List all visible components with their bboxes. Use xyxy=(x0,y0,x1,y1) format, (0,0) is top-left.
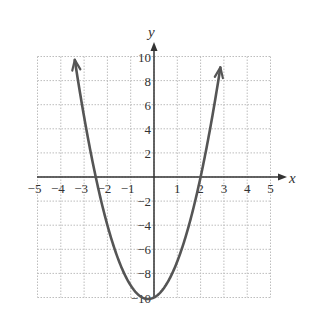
x-tick-label: −1 xyxy=(121,181,135,196)
chart-canvas: x y −5−4−3−2−112345108642−2−4−6−8−10 xyxy=(0,0,312,323)
y-tick-label: 6 xyxy=(145,98,152,113)
x-axis-arrow-icon xyxy=(278,174,287,181)
y-tick-label: 10 xyxy=(138,50,151,65)
y-tick-label: −2 xyxy=(137,194,151,209)
x-tick-label: −5 xyxy=(28,181,42,196)
x-axis-label: x xyxy=(288,170,296,186)
x-tick-label: 1 xyxy=(174,181,181,196)
parabola-curve xyxy=(75,60,221,299)
x-tick-label: −3 xyxy=(74,181,88,196)
y-tick-label: −4 xyxy=(137,218,151,233)
x-tick-label: 5 xyxy=(267,181,274,196)
y-tick-label: 8 xyxy=(145,74,152,89)
x-tick-label: −4 xyxy=(51,181,65,196)
y-axis-arrow-icon xyxy=(151,42,158,51)
y-tick-label: 4 xyxy=(145,122,152,137)
y-tick-label: −8 xyxy=(137,266,151,281)
y-tick-label: −6 xyxy=(137,242,151,257)
y-tick-label: 2 xyxy=(145,146,152,161)
y-axis-label: y xyxy=(146,24,155,40)
x-tick-label: 3 xyxy=(221,181,228,196)
x-tick-label: 4 xyxy=(244,181,251,196)
